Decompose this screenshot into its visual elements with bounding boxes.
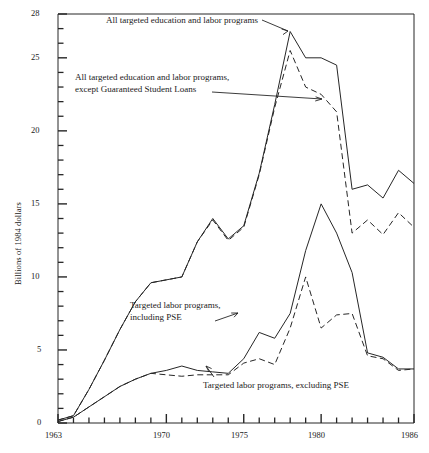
chart-figure: Billions of 1984 dollars 28 25 20 15 10 …	[0, 0, 429, 453]
annotation-labor-including-pse-line2: including PSE	[130, 312, 220, 324]
y-tick-label-10: 10	[31, 271, 40, 281]
y-tick-label-25: 25	[31, 52, 40, 62]
y-tick-label-0: 0	[37, 417, 41, 427]
y-tick-label-15: 15	[31, 198, 40, 208]
annotation-all-programs: All targeted education and labor program…	[106, 15, 258, 27]
x-tick-label-1963: 1963	[45, 430, 62, 440]
x-tick-label-1970: 1970	[153, 430, 170, 440]
x-tick-label-1986: 1986	[401, 430, 418, 440]
x-tick-label-1975: 1975	[231, 430, 248, 440]
y-axis-title: Billions of 1984 dollars	[13, 202, 23, 285]
y-tick-label-20: 20	[31, 125, 40, 135]
annotation-except-gsl-line2: except Guaranteed Student Loans	[75, 84, 229, 96]
y-axis-ticks	[58, 14, 67, 423]
x-tick-label-1980: 1980	[308, 430, 325, 440]
y-tick-label-28: 28	[31, 8, 40, 18]
leader-arrow-all-programs	[282, 29, 288, 35]
y-tick-label-5: 5	[37, 344, 41, 354]
annotation-except-gsl: All targeted education and labor program…	[75, 72, 229, 95]
annotation-labor-including-pse: Targeted labor programs, including PSE	[130, 300, 220, 323]
series-line-1	[58, 51, 414, 421]
series-line-3	[58, 277, 414, 422]
annotation-labor-including-pse-line1: Targeted labor programs,	[130, 300, 220, 312]
x-axis-ticks	[58, 414, 414, 423]
leader-arrow-labor-excl-pse	[206, 366, 212, 372]
annotation-labor-excluding-pse: Targeted labor programs, excluding PSE	[203, 380, 349, 392]
annotation-except-gsl-line1: All targeted education and labor program…	[75, 72, 229, 84]
